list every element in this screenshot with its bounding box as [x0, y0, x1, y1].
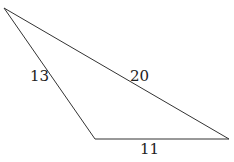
side-label-base: 11: [140, 140, 159, 158]
side-label-left: 13: [30, 67, 49, 85]
triangle-diagram: 13 20 11: [0, 0, 234, 162]
triangle-svg: 13 20 11: [0, 0, 234, 162]
side-label-hypotenuse: 20: [130, 67, 149, 85]
